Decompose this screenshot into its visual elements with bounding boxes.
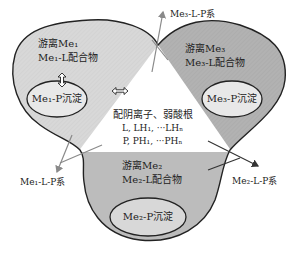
lobe-me3-free-label: 游离Me₃	[185, 43, 225, 55]
system-me3-label: Me₃-L-P系	[170, 8, 215, 20]
center-ligand-line: L, LH₁, ···LHₙ	[105, 122, 200, 134]
center-title: 配阴离子、弱酸根	[105, 109, 200, 121]
lobe-me2-free-label: 游离Me₂	[122, 160, 162, 172]
lobe-me3-complex-label: Me₃-L配合物	[185, 57, 245, 69]
lobe-me1-free-label: 游离Me₁	[38, 38, 78, 50]
lobe-me2-precip-label: Me₂-P沉淀	[118, 211, 178, 223]
lobe-me2-complex-label: Me₂-L配合物	[122, 174, 182, 186]
system-me1-label: Me₁-L-P系	[20, 176, 65, 188]
lobe-me1-precip-label: Me₁-P沉淀	[27, 93, 87, 105]
lobe-me1-complex-label: Me₁-L配合物	[38, 52, 98, 64]
lobe-me3-precip-label: Me₃-P沉淀	[202, 93, 262, 105]
center-precipitant-line: P, PH₁, ···PHₙ	[105, 135, 200, 147]
system-me2-label: Me₂-L-P系	[232, 175, 277, 187]
